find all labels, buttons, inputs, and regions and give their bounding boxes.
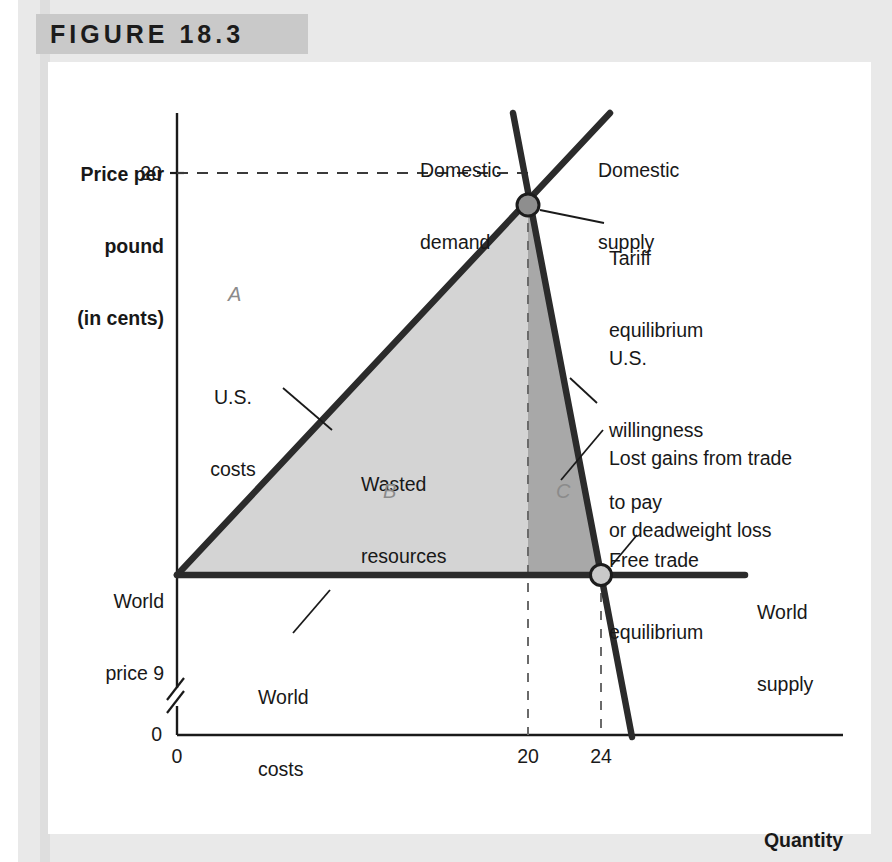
- domestic-demand-label-line1: Domestic: [420, 158, 501, 182]
- x-tick-label-0: 0: [155, 744, 199, 768]
- tariff-equilibrium-label-line1: Tariff: [609, 246, 703, 270]
- world-price-label: World price 9: [46, 541, 164, 733]
- wasted-resources-label: Wasted resources: [361, 424, 447, 616]
- us-willingness-label-line1: U.S.: [609, 346, 703, 370]
- deadweight-loss-label-line1: Lost gains from trade: [609, 446, 792, 470]
- world-costs-label: World costs: [258, 637, 309, 829]
- us-costs-label-line1: U.S.: [178, 385, 288, 409]
- leader-line-world-costs: [293, 590, 330, 633]
- world-supply-label-line2: supply: [757, 672, 813, 696]
- y-tick-label-20: 20: [90, 161, 162, 185]
- world-supply-label-line1: World: [757, 600, 813, 624]
- leader-line-us-costs: [283, 388, 332, 430]
- world-costs-label-line1: World: [258, 685, 309, 709]
- region-c-letter: C: [556, 479, 570, 503]
- world-price-label-line1: World: [46, 589, 164, 613]
- tariff-equilibrium-point: [517, 194, 539, 216]
- x-axis-title-line1: Quantity: [543, 828, 843, 852]
- wasted-resources-label-line1: Wasted: [361, 472, 447, 496]
- region-a-letter: A: [228, 282, 241, 306]
- wasted-resources-label-line2: resources: [361, 544, 447, 568]
- us-costs-label-line2: costs: [178, 457, 288, 481]
- x-tick-label-20: 20: [506, 744, 550, 768]
- free-trade-equilibrium-label-line2: equilibrium: [609, 620, 703, 644]
- us-costs-label: U.S. costs: [178, 337, 288, 529]
- free-trade-equilibrium-label-line1: Free trade: [609, 548, 703, 572]
- domestic-supply-label-line1: Domestic: [598, 158, 679, 182]
- world-supply-label: World supply: [757, 552, 813, 744]
- world-costs-label-line2: costs: [258, 757, 309, 781]
- x-tick-label-24: 24: [579, 744, 623, 768]
- figure-root: FIGURE 18.3: [0, 0, 892, 862]
- region-b-letter: B: [383, 479, 396, 503]
- leader-line-us-willingness: [570, 378, 597, 403]
- leader-line-tariff-equilibrium: [540, 210, 604, 223]
- y-axis-title-line2: pound: [28, 234, 164, 258]
- y-axis-break-slash-2: [167, 691, 184, 713]
- domestic-demand-label: Domestic demand: [420, 110, 501, 302]
- y-axis-break-slash-1: [167, 678, 184, 700]
- world-price-label-line2: price 9: [46, 661, 164, 685]
- y-axis-title-line3: (in cents): [28, 306, 164, 330]
- free-trade-equilibrium-label: Free trade equilibrium: [609, 500, 703, 692]
- y-tick-label-0: 0: [102, 722, 162, 746]
- x-axis-title: Quantity (in billions of pounds): [543, 780, 843, 862]
- domestic-demand-label-line2: demand: [420, 230, 501, 254]
- y-axis-title: Price per pound (in cents): [28, 114, 164, 378]
